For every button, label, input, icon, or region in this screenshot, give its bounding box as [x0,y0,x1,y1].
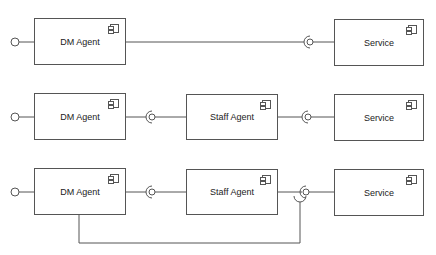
component-icon [262,100,271,109]
component-label: DM Agent [35,187,125,197]
component-label: DM Agent [35,112,125,122]
component-staff-agent-row2[interactable]: Staff Agent [186,94,278,140]
component-icon [408,100,417,109]
component-label: Service [335,38,423,48]
component-icon [408,25,417,34]
component-label: DM Agent [35,37,125,47]
component-icon [408,175,417,184]
provided-interface-lollipop [11,38,19,46]
component-icon [262,175,271,184]
component-label: Staff Agent [187,112,277,122]
component-icon [110,99,119,108]
component-icon [110,174,119,183]
component-dm-agent-row3[interactable]: DM Agent [34,168,126,215]
component-service-row3[interactable]: Service [334,169,424,216]
component-service-row1[interactable]: Service [334,19,424,66]
provided-interface-ball [307,39,313,45]
component-dm-agent-row2[interactable]: DM Agent [34,93,126,140]
component-label: Service [335,188,423,198]
component-icon [110,24,119,33]
component-label: Service [335,113,423,123]
component-service-row2[interactable]: Service [334,94,424,141]
component-dm-agent-row1[interactable]: DM Agent [34,18,126,65]
component-staff-agent-row3[interactable]: Staff Agent [186,169,278,215]
component-label: Staff Agent [187,187,277,197]
